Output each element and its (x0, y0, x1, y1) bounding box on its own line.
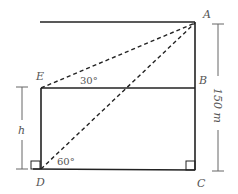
heights-distances-diagram: 150 m h A B C D E 30° 60° (0, 0, 238, 194)
point-A-label: A (202, 8, 211, 21)
tower-height-label: 150 m (211, 88, 224, 123)
ground-DC (33, 169, 195, 170)
point-C-label: C (197, 177, 206, 190)
point-B-label: B (198, 74, 207, 87)
point-D-label: D (35, 176, 45, 189)
line-of-sight-DA (41, 23, 195, 169)
building-height-label: h (18, 124, 25, 137)
point-E-label: E (35, 70, 44, 83)
angle-30-label: 30° (80, 75, 98, 86)
line-of-sight-EA (41, 23, 195, 88)
right-angle-marker-D (31, 161, 40, 169)
angle-60-label: 60° (57, 156, 75, 167)
right-angle-marker-C (186, 161, 195, 170)
